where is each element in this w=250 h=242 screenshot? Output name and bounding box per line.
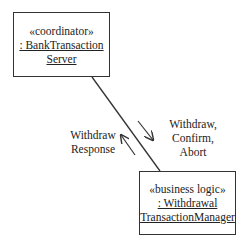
message-line: Confirm, — [168, 131, 218, 145]
stereotype-label: «business logic» — [149, 182, 225, 196]
bank-transaction-server-object[interactable]: «coordinator» : BankTransaction Server — [13, 12, 110, 77]
object-name-line2: Server — [46, 52, 76, 66]
object-name-line2: TransactionManager — [140, 210, 235, 224]
message-line: Abort — [168, 145, 218, 159]
message-line: Withdraw, — [168, 117, 218, 131]
stereotype-label: «coordinator» — [29, 24, 94, 38]
object-name-line1: : BankTransaction — [19, 38, 103, 52]
message-line: Response — [62, 142, 124, 156]
object-name-line1: : Withdrawal — [158, 196, 218, 210]
message-label-to-manager: Withdraw, Confirm, Abort — [168, 117, 218, 159]
arrow-to-manager — [138, 121, 153, 140]
message-line: Withdraw — [62, 128, 124, 142]
withdrawal-transaction-manager-object[interactable]: «business logic» : Withdrawal Transactio… — [139, 171, 236, 235]
association-link — [92, 77, 160, 171]
message-label-to-server: Withdraw Response — [62, 128, 124, 156]
